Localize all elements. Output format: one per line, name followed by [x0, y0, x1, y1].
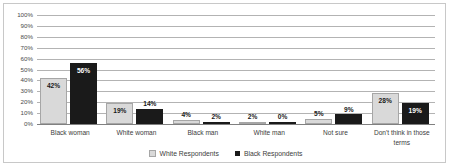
- plot-area: 100%90%80%70%60%50%40%30%20%10%0% 42%56%…: [37, 15, 435, 124]
- bar: 19%: [106, 103, 133, 124]
- y-axis-tick-label: 80%: [21, 34, 33, 40]
- y-axis-tick-label: 90%: [21, 23, 33, 29]
- chart-legend: White RespondentsBlack Respondents: [4, 150, 447, 157]
- bar-group: 42%56%: [37, 15, 103, 124]
- y-axis-tick-label: 100%: [17, 12, 33, 18]
- bar-value-label: 4%: [181, 112, 191, 119]
- legend-label: White Respondents: [160, 150, 219, 157]
- chart-container: 100%90%80%70%60%50%40%30%20%10%0% 42%56%…: [3, 3, 446, 163]
- bar: 4%: [173, 120, 200, 124]
- y-axis-tick-label: 10%: [21, 110, 33, 116]
- bar-value-label: 5%: [314, 111, 324, 118]
- bar: 42%: [40, 78, 67, 124]
- bar-value-label: 19%: [113, 108, 126, 115]
- category-axis: Black womanWhite womanBlack manWhite man…: [37, 128, 435, 152]
- y-axis-tick-label: 60%: [21, 55, 33, 61]
- y-axis-tick-label: 70%: [21, 45, 33, 51]
- category-label: White man: [236, 128, 302, 138]
- bar-value-label: 9%: [344, 107, 354, 114]
- axis-baseline: 0%: [37, 124, 435, 125]
- y-axis-tick-label: 30%: [21, 88, 33, 94]
- category-label: Don't think in those terms: [369, 128, 435, 147]
- bar-groups: 42%56%19%14%4%2%2%0%5%9%28%19%: [37, 15, 435, 124]
- y-axis-tick-label: 50%: [21, 66, 33, 72]
- bar-group: 28%19%: [369, 15, 435, 124]
- legend-swatch-icon: [235, 151, 240, 156]
- bar-value-label: 2%: [248, 114, 258, 121]
- bar-value-label: 2%: [211, 114, 221, 121]
- bar-value-label: 19%: [409, 108, 422, 115]
- bar-group: 19%14%: [103, 15, 169, 124]
- bar: 19%: [402, 103, 429, 124]
- bar: 56%: [70, 63, 97, 124]
- category-label: Black man: [170, 128, 236, 138]
- bar-value-label: 14%: [143, 101, 156, 108]
- bar: 9%: [335, 114, 362, 124]
- bar-group: 2%0%: [236, 15, 302, 124]
- bar-value-label: 42%: [47, 83, 60, 90]
- bar-group: 4%2%: [170, 15, 236, 124]
- bar: 5%: [305, 119, 332, 124]
- bar-value-label: 28%: [379, 98, 392, 105]
- bar: 2%: [239, 122, 266, 124]
- legend-label: Black Respondents: [244, 150, 303, 157]
- bar-value-label: 0%: [278, 114, 288, 121]
- bar: 14%: [136, 109, 163, 124]
- y-axis-tick-label: 40%: [21, 77, 33, 83]
- y-axis-tick-label: 20%: [21, 99, 33, 105]
- category-label: White woman: [103, 128, 169, 138]
- category-label: Not sure: [302, 128, 368, 138]
- category-label: Black woman: [37, 128, 103, 138]
- bar-group: 5%9%: [302, 15, 368, 124]
- bar-value-label: 56%: [77, 68, 90, 75]
- y-axis-tick-label: 0%: [24, 121, 33, 127]
- bar: 28%: [372, 93, 399, 124]
- bar: 0%: [269, 122, 296, 124]
- bar: 2%: [203, 122, 230, 124]
- legend-item[interactable]: Black Respondents: [235, 150, 303, 157]
- legend-swatch-icon: [149, 150, 156, 157]
- legend-item[interactable]: White Respondents: [149, 150, 219, 157]
